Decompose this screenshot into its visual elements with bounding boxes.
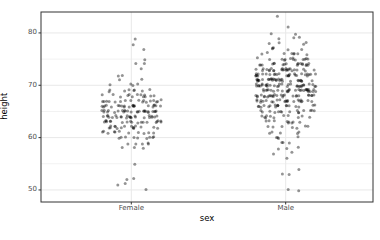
data-point — [114, 101, 117, 104]
data-point — [271, 94, 274, 97]
data-point — [109, 83, 112, 86]
data-point — [298, 121, 301, 124]
data-point — [268, 110, 271, 113]
data-point — [123, 109, 126, 112]
data-point — [155, 121, 158, 124]
data-point — [118, 78, 121, 81]
data-point — [297, 131, 300, 134]
data-point — [132, 177, 135, 180]
data-point — [260, 115, 263, 118]
data-point — [153, 110, 156, 113]
data-point — [109, 124, 112, 127]
data-point — [124, 136, 127, 139]
data-point — [155, 115, 158, 118]
data-point — [101, 93, 104, 96]
data-point — [297, 116, 300, 119]
data-point — [145, 137, 148, 140]
data-point — [132, 43, 135, 46]
data-point — [126, 143, 129, 146]
data-point — [291, 126, 294, 129]
data-point — [263, 95, 266, 98]
data-point — [105, 119, 108, 122]
data-point — [110, 106, 113, 109]
data-point — [277, 148, 280, 151]
data-point — [285, 157, 288, 160]
data-point — [307, 62, 310, 65]
data-point — [129, 120, 132, 123]
data-point — [131, 95, 134, 98]
data-point — [140, 121, 143, 124]
data-point — [126, 121, 129, 124]
data-point — [261, 78, 264, 81]
data-point — [136, 111, 139, 114]
y-tick-label: 60 — [0, 134, 37, 141]
data-point — [160, 98, 163, 101]
data-point — [129, 116, 132, 119]
data-point — [147, 111, 150, 114]
data-point — [289, 57, 292, 60]
data-point — [288, 142, 291, 145]
data-point — [256, 56, 259, 59]
data-point — [294, 59, 297, 62]
data-point — [141, 89, 144, 92]
data-point — [156, 127, 159, 130]
data-point — [272, 126, 275, 129]
data-point — [260, 53, 263, 56]
data-point — [123, 125, 126, 128]
data-point — [128, 88, 131, 91]
data-point — [310, 100, 313, 103]
data-point — [130, 111, 133, 114]
data-point — [159, 105, 162, 108]
data-point — [259, 106, 262, 109]
data-point — [282, 63, 285, 66]
data-point — [292, 94, 295, 97]
data-point — [270, 89, 273, 92]
data-point — [269, 84, 272, 87]
data-point — [117, 75, 120, 78]
data-point — [152, 131, 155, 134]
data-point — [297, 106, 300, 109]
data-point — [313, 103, 316, 106]
data-point — [307, 99, 310, 102]
data-point — [137, 131, 140, 134]
data-point — [271, 130, 274, 133]
data-point — [309, 90, 312, 93]
data-point — [255, 68, 258, 71]
data-point — [277, 37, 280, 40]
data-point — [281, 125, 284, 128]
data-point — [288, 173, 291, 176]
data-point — [139, 93, 142, 96]
data-point — [133, 163, 136, 166]
x-tick-label: Female — [101, 205, 161, 212]
data-point — [281, 68, 284, 71]
data-point — [285, 68, 288, 71]
data-point — [294, 105, 297, 108]
data-point — [140, 78, 143, 81]
data-point — [267, 125, 270, 128]
data-point — [314, 72, 317, 75]
data-point — [297, 62, 300, 65]
data-point — [121, 74, 124, 77]
data-point — [312, 93, 315, 96]
data-point — [266, 51, 269, 54]
data-point — [276, 89, 279, 92]
data-point — [306, 88, 309, 91]
data-point — [278, 41, 281, 44]
data-point — [136, 122, 139, 125]
data-point — [113, 111, 116, 114]
data-point — [297, 111, 300, 114]
data-point — [144, 95, 147, 98]
data-point — [127, 132, 130, 135]
data-point — [147, 143, 150, 146]
data-point — [289, 80, 292, 83]
data-point — [118, 137, 121, 140]
data-point — [133, 146, 136, 149]
data-point — [149, 100, 152, 103]
data-point — [159, 119, 162, 122]
data-point — [111, 116, 114, 119]
data-point — [102, 115, 105, 118]
data-point — [143, 116, 146, 119]
data-point — [273, 111, 276, 114]
data-point — [308, 116, 311, 119]
data-point — [255, 98, 258, 101]
